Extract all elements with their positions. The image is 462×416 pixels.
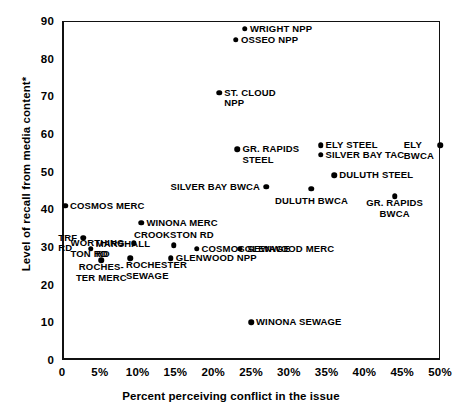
y-tick-0: 0 <box>12 354 54 366</box>
data-point-label: SILVER BAY TAC <box>326 149 405 160</box>
data-point <box>194 246 200 252</box>
x-tick-30pct: 30% <box>277 366 301 378</box>
data-point <box>171 242 177 248</box>
data-point <box>216 90 222 96</box>
data-point <box>62 203 68 209</box>
x-tick-5pct: 5% <box>91 366 108 378</box>
data-point <box>139 220 145 226</box>
x-tick-50pct: 50% <box>428 366 452 378</box>
data-point <box>318 143 324 149</box>
data-point-label: COSMOS MERC <box>70 200 145 211</box>
x-tick-20pct: 20% <box>201 366 225 378</box>
y-tick-40: 40 <box>12 203 54 215</box>
data-point-label: GLENWOOD NPP <box>176 253 257 264</box>
y-tick-60: 60 <box>12 128 54 140</box>
data-point-label: GR. RAPIDS STEEL <box>242 144 299 165</box>
data-point <box>331 173 337 179</box>
y-tick-30: 30 <box>12 241 54 253</box>
data-point <box>237 246 243 252</box>
x-tick-45pct: 45% <box>390 366 414 378</box>
data-point <box>437 143 443 149</box>
x-tick-0: 0 <box>59 366 66 378</box>
y-tick-90: 90 <box>12 15 54 27</box>
data-point-label: DULUTH STEEL <box>339 170 413 181</box>
data-point-label: DULUTH BWCA <box>275 195 348 206</box>
scatter-chart: Level of recall from media content* 0102… <box>0 0 462 416</box>
x-tick-35pct: 35% <box>315 366 339 378</box>
data-point <box>263 184 269 190</box>
data-point <box>88 246 94 252</box>
data-point-label: GR. RAPIDS BWCA <box>366 198 423 219</box>
data-point <box>318 152 324 158</box>
y-tick-20: 20 <box>12 279 54 291</box>
data-point-label: WINONA MERC <box>146 217 218 228</box>
data-point-label: WINONA SEWAGE <box>256 317 342 328</box>
data-point-label: ROCHESTER SEWAGE <box>126 260 187 281</box>
y-tick-80: 80 <box>12 53 54 65</box>
x-tick-40pct: 40% <box>353 366 377 378</box>
x-tick-15pct: 15% <box>164 366 188 378</box>
data-point-label: ROCHES- TER MERC <box>76 262 127 283</box>
y-tick-70: 70 <box>12 90 54 102</box>
data-point-label: ST. CLOUD NPP <box>224 87 276 108</box>
data-point <box>309 186 315 192</box>
y-tick-50: 50 <box>12 166 54 178</box>
data-point <box>233 37 239 43</box>
data-point <box>248 320 254 326</box>
data-point-label: MARSHALL RD <box>96 238 151 259</box>
x-axis-label: Percent perceiving conflict in the issue <box>0 390 462 402</box>
x-tick-25pct: 25% <box>239 366 263 378</box>
data-point-label: GLENWOOD MERC <box>245 244 335 255</box>
data-point-label: OSSEO NPP <box>241 35 298 46</box>
data-point-label: ELY BWCA <box>404 140 434 161</box>
data-point-label: SILVER BAY BWCA <box>170 181 260 192</box>
data-point-label: WRIGHT NPP <box>250 23 312 34</box>
data-point <box>235 146 241 152</box>
data-point <box>242 26 248 32</box>
x-tick-10pct: 10% <box>126 366 150 378</box>
y-tick-10: 10 <box>12 316 54 328</box>
